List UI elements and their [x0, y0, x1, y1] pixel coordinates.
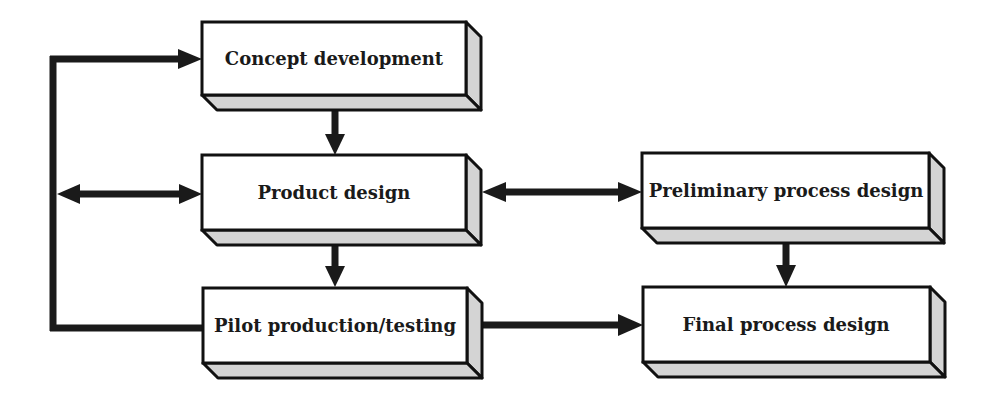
arrowhead-right-icon [618, 314, 643, 336]
node-concept-development: Concept development [202, 22, 481, 110]
node-label: Final process design [682, 314, 889, 335]
process-flow-diagram: Concept development Product design Pilot… [0, 0, 989, 399]
node-preliminary-process-design: Preliminary process design [642, 153, 944, 243]
arrow-concept-to-product [325, 110, 345, 155]
arrow-product-prelim-bidirectional [482, 182, 642, 202]
node-product-design: Product design [202, 155, 481, 245]
arrowhead-down-icon [776, 265, 796, 287]
arrowhead-down-icon [325, 266, 345, 287]
arrowhead-to-product-icon [179, 184, 202, 204]
feedback-loop-connector [50, 49, 203, 331]
arrowhead-left-icon [57, 184, 80, 204]
arrowhead-right-icon [618, 182, 642, 202]
arrowhead-to-concept-icon [178, 49, 202, 69]
node-final-process-design: Final process design [643, 287, 945, 377]
arrow-product-to-pilot [325, 245, 345, 287]
node-label: Product design [258, 182, 411, 203]
node-label: Preliminary process design [649, 180, 924, 201]
arrowhead-left-icon [482, 182, 506, 202]
node-label: Pilot production/testing [214, 315, 456, 336]
arrow-pilot-to-final [482, 314, 643, 336]
node-label: Concept development [225, 48, 444, 69]
arrow-prelim-to-final [776, 243, 796, 287]
node-pilot-production-testing: Pilot production/testing [203, 288, 482, 378]
arrowhead-down-icon [325, 134, 345, 155]
